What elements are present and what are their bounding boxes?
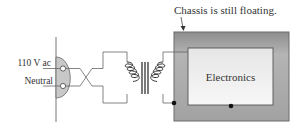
outlet-receptacle: [56, 57, 70, 98]
wire-hot-to-primary: [66, 69, 103, 87]
primary-wiring-bottom: [103, 86, 127, 103]
electronics-label: Electronics: [206, 71, 255, 83]
junction-dot-chassis: [172, 101, 177, 106]
outlet-neutral-hole-icon: [60, 83, 65, 88]
primary-coil-icon: [125, 62, 139, 82]
arrowhead-icon: [181, 26, 186, 31]
secondary-coil-icon: [151, 62, 165, 82]
junction-dot-electronics: [229, 104, 234, 109]
neutral-label: Neutral: [25, 76, 54, 86]
wire-neutral-to-primary: [66, 69, 103, 87]
hot-label: 110 V ac: [17, 58, 51, 68]
outlet-hot-hole-icon: [60, 66, 65, 71]
isolation-transformer-diagram: Chassis is still floating. Electronics 1…: [0, 0, 304, 131]
chassis-note-label: Chassis is still floating.: [174, 4, 277, 16]
primary-wiring: [103, 52, 127, 69]
